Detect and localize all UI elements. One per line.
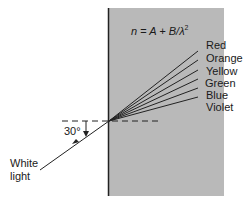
label-violet: Violet	[206, 101, 233, 113]
formula-lhs: n	[131, 25, 137, 37]
angle-label: 30°	[64, 125, 81, 137]
incident-label-line2: light	[10, 170, 30, 182]
label-yellow: Yellow	[206, 65, 237, 77]
cauchy-formula: n = A + B/λ2	[131, 24, 188, 37]
formula-rhs: A + B/λ	[149, 25, 184, 37]
incident-label-line1: White	[10, 157, 38, 169]
label-red: Red	[206, 39, 226, 51]
label-blue: Blue	[206, 89, 228, 101]
formula-exponent: 2	[185, 24, 189, 31]
label-green: Green	[205, 77, 236, 89]
label-orange: Orange	[206, 52, 243, 64]
